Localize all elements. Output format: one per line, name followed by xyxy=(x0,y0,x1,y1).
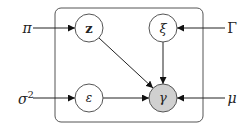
hyper-sigma-label: σ2 xyxy=(18,89,34,107)
node-gamma-label: γ xyxy=(159,90,167,105)
sigma-symbol: σ xyxy=(18,91,28,107)
node-gamma-observed: γ xyxy=(149,84,177,112)
node-z-label: z xyxy=(85,21,92,36)
sigma-superscript: 2 xyxy=(28,89,34,100)
hyper-Gamma-label: Γ xyxy=(227,20,237,36)
hyper-pi-label: π xyxy=(21,20,32,36)
edge-z-to-gamma xyxy=(99,38,153,88)
hyper-mu-label: μ xyxy=(227,90,236,106)
node-xi-label: ξ xyxy=(159,21,167,36)
node-xi: ξ xyxy=(149,14,177,42)
node-z: z xyxy=(75,14,103,42)
node-epsilon: ε xyxy=(75,84,103,112)
graphical-model-diagram: z ξ ε γ π σ2 Γ μ xyxy=(0,0,249,128)
node-epsilon-label: ε xyxy=(86,91,92,105)
